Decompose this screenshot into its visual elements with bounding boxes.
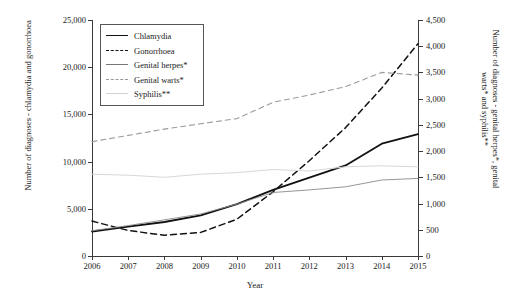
- y-axis-left-title: Number of diagnoses - chlamydia and gono…: [23, 16, 34, 196]
- series-line-chlamydia: [92, 134, 418, 231]
- legend-item-gonorrhoea: Gonorrhoea: [106, 44, 198, 59]
- legend-swatch-gonorrhoea: [106, 46, 128, 56]
- legend-item-genital-herpes: Genital herpes*: [106, 58, 198, 73]
- legend-label-syphilis: Syphilis**: [134, 89, 170, 99]
- series-paths: [0, 0, 506, 303]
- legend-label-chlamydia: Chlamydia: [134, 31, 171, 41]
- x-axis-title: Year: [215, 280, 295, 291]
- legend-item-chlamydia: Chlamydia: [106, 29, 198, 44]
- legend-swatch-genital-herpes: [106, 60, 128, 70]
- legend-item-genital-warts: Genital warts*: [106, 73, 198, 88]
- line-chart: 05,00010,00015,00020,00025,000 05001,000…: [0, 0, 506, 303]
- legend-swatch-genital-warts: [106, 75, 128, 85]
- legend-swatch-chlamydia: [106, 31, 128, 41]
- series-line-syphilis: [92, 166, 418, 178]
- legend-label-gonorrhoea: Gonorrhoea: [134, 46, 175, 56]
- legend: Chlamydia Gonorrhoea Genital herpes* Gen…: [100, 24, 204, 106]
- legend-swatch-syphilis: [106, 89, 128, 99]
- legend-label-genital-herpes: Genital herpes*: [134, 60, 188, 70]
- legend-label-genital-warts: Genital warts*: [134, 75, 184, 85]
- legend-item-syphilis: Syphilis**: [106, 87, 198, 102]
- y-axis-right-title: Number of diagnoses - genital herpes*, g…: [479, 19, 501, 199]
